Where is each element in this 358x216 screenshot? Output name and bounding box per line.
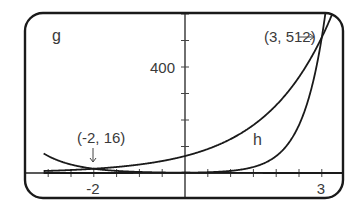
x-tick-label-3: 3 — [317, 180, 325, 197]
arrow-down-icon — [90, 148, 96, 162]
y-tick-label-400: 400 — [150, 59, 175, 76]
graph-canvas: g h 400 -2 3 (-2, 16) (3, 512) — [0, 0, 358, 216]
annotation-point-neg2-16: (-2, 16) — [77, 129, 125, 146]
label-h: h — [253, 131, 262, 148]
x-tick-label-neg2: -2 — [86, 180, 99, 197]
label-g: g — [52, 27, 61, 44]
curve-steep — [44, 0, 345, 173]
